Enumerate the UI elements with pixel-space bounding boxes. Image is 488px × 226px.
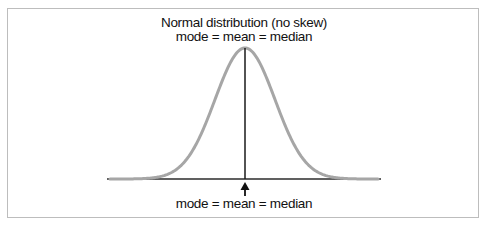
center-annotation: mode = mean = median [0,196,488,211]
diagram-subtitle: mode = mean = median [0,29,488,44]
arrow-up-icon [241,182,250,196]
diagram-title: Normal distribution (no skew) [0,15,488,30]
bell-curve [110,48,378,179]
